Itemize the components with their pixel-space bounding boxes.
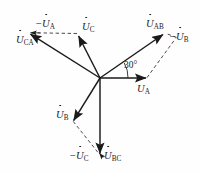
phasor-uab [100,35,163,79]
label-neg-ua: −UA [36,19,55,31]
label-ub: UB [56,110,69,122]
label-ubc: UBC [104,151,121,163]
dashed-line-neg-uc-from-ub [73,121,98,152]
phasor-diagram-canvas [0,0,200,173]
dashed-arrow-neg-uc-head [99,153,103,157]
label-neg-uc: −UC [70,151,89,163]
label-ua: UA [137,84,150,96]
label-uab: UAB [146,19,164,31]
phasor-ub [74,78,100,121]
label-uca: UCA [16,35,34,47]
label-uc: UC [82,22,95,34]
dashed-line-neg-ub-from-ua [147,39,176,78]
phasor-diagram-figure: −UA UC UCA UAB −UB UA UB −UC UBC 30° [0,0,200,173]
label-neg-ub: −UB [170,32,189,44]
angle-label-30deg: 30° [124,60,137,70]
